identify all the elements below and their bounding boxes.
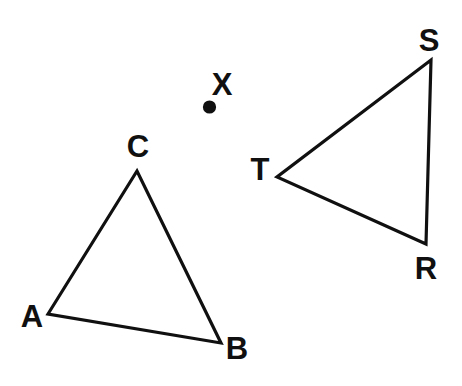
vertex-label-t: T (251, 154, 270, 185)
geometry-figure-canvas: A B C R S T X (0, 0, 462, 386)
figure-drawing-surface (0, 0, 462, 386)
vertex-label-r: R (415, 253, 437, 284)
triangle-rst-shape (277, 60, 431, 244)
triangle-abc-shape (48, 171, 221, 343)
point-x-dot (203, 100, 216, 113)
vertex-label-b: B (226, 333, 248, 364)
point-label-x: X (212, 69, 233, 100)
vertex-label-a: A (21, 301, 43, 332)
vertex-label-c: C (127, 131, 149, 162)
vertex-label-s: S (419, 25, 440, 56)
